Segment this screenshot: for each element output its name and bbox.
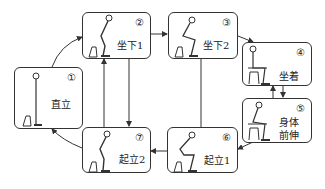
state-label: 坐下1	[117, 39, 143, 52]
state-number: ②	[135, 17, 144, 28]
standing-up-figure-icon	[170, 129, 200, 173]
state-box-6: ⑥ 起立1	[167, 127, 238, 173]
state-box-4: ④ 坐着	[242, 42, 312, 86]
state-box-3: ③ 坐下2	[168, 12, 238, 59]
state-label-line2: 前伸	[279, 129, 299, 142]
state-label: 起立1	[204, 154, 230, 167]
state-number: ①	[67, 72, 76, 83]
seated-figure-icon	[245, 44, 275, 86]
state-box-5: ⑤ 身体 前伸	[242, 98, 312, 143]
arrow-1-to-2	[52, 37, 82, 67]
state-label: 坐着	[279, 70, 299, 83]
state-number: ⑦	[135, 132, 144, 143]
state-box-1: ① 直立	[14, 67, 83, 129]
state-label: 直立	[51, 98, 71, 111]
sitting-down-figure-icon	[171, 14, 201, 58]
state-box-7: ⑦ 起立2	[82, 127, 151, 173]
arrow-7-to-1	[52, 129, 82, 148]
state-number: ④	[296, 47, 305, 58]
state-box-2: ② 坐下1	[82, 12, 151, 59]
state-number: ③	[222, 17, 231, 28]
state-label: 坐下2	[203, 39, 229, 52]
standing-figure-icon	[17, 70, 47, 128]
sitting-down-figure-icon	[85, 14, 115, 58]
sit-stand-state-diagram: ① 直立 ② 坐下1 ③ 坐下2 ④ 坐着	[0, 0, 325, 189]
state-label-line1: 身体	[279, 116, 299, 129]
leaning-forward-figure-icon	[245, 100, 275, 142]
state-label: 起立2	[119, 153, 145, 166]
arrow-5-to-6	[238, 142, 253, 149]
state-number: ⑥	[222, 132, 231, 143]
state-number: ⑤	[296, 103, 305, 114]
standing-up-figure-icon	[85, 129, 115, 173]
